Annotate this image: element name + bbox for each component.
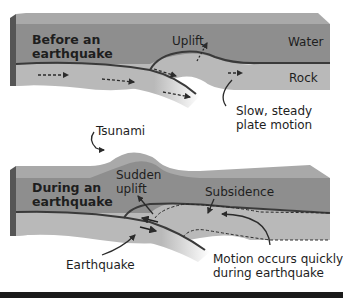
block-side-face bbox=[10, 14, 16, 86]
water-label: Water bbox=[288, 35, 323, 49]
tsunami-label: Tsunami bbox=[96, 124, 145, 138]
sudden-uplift-label-line2: uplift bbox=[116, 182, 147, 196]
block-side-face bbox=[10, 166, 16, 236]
subsidence-label: Subsidence bbox=[205, 185, 274, 199]
slow-steady-label-line1: Slow, steady bbox=[236, 104, 312, 118]
water-top-face bbox=[16, 13, 330, 24]
sudden-uplift-label-line1: Sudden bbox=[116, 168, 161, 182]
during-heading-line1: During an bbox=[32, 180, 101, 195]
before-heading-line1: Before an bbox=[32, 32, 100, 47]
rock-label: Rock bbox=[289, 71, 318, 85]
bottom-border bbox=[0, 292, 343, 298]
motion-label-line2: during earthquake bbox=[213, 266, 324, 280]
motion-label-line1: Motion occurs quickly bbox=[213, 252, 343, 266]
uplift-label: Uplift bbox=[172, 34, 204, 48]
earthquake-label: Earthquake bbox=[66, 258, 135, 272]
before-heading-line2: earthquake bbox=[32, 46, 113, 61]
during-heading-line2: earthquake bbox=[32, 194, 113, 209]
slow-steady-label-line2: plate motion bbox=[236, 118, 312, 132]
